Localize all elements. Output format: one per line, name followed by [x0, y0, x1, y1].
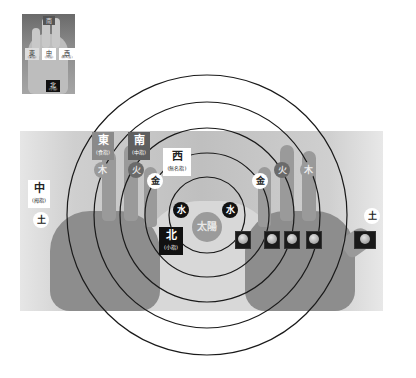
element-earth-left: 土 [33, 212, 49, 228]
element-fire-left: 火 [128, 162, 144, 178]
sun-center: 太陽 [192, 212, 222, 242]
element-water-left: 水 [173, 202, 189, 218]
planet-venus-icon [264, 231, 280, 249]
concentric-orbit-rings [0, 0, 416, 378]
element-wood-left: 木 [94, 162, 110, 178]
label-center: 中(拇指) [28, 180, 50, 208]
planet-mars-icon [284, 231, 300, 249]
planet-saturn-icon [354, 231, 376, 249]
element-earth-right: 土 [364, 208, 380, 224]
element-water-right: 水 [222, 202, 238, 218]
element-wood-right: 木 [300, 162, 316, 178]
label-north: 北(小指) [159, 227, 183, 255]
element-metal-left: 金 [147, 173, 163, 189]
element-fire-right: 火 [274, 162, 290, 178]
planet-mercury-icon [235, 231, 251, 249]
label-south: 南(中指) [128, 132, 150, 160]
label-west: 西(無名指) [163, 148, 191, 176]
label-east: 東(食指) [92, 132, 114, 160]
planet-jupiter-icon [306, 231, 322, 249]
element-metal-right: 金 [252, 173, 268, 189]
